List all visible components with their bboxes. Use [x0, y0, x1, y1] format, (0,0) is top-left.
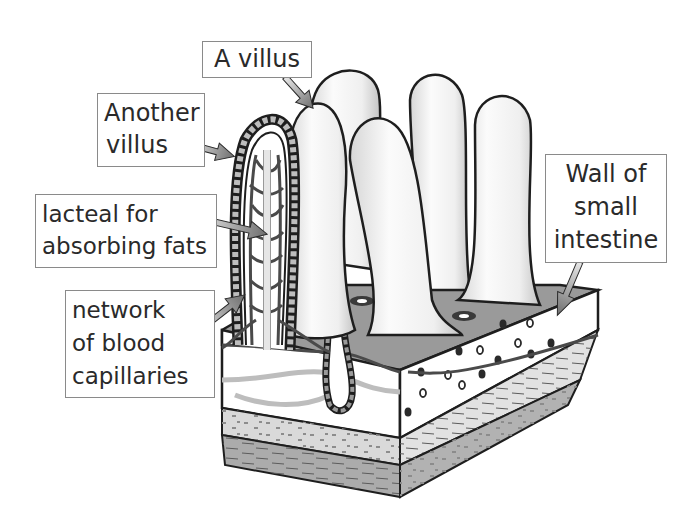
label-capillaries: network of blood capillaries	[65, 290, 215, 398]
label-wall-line-1: Wall of	[552, 158, 660, 191]
label-another-villus: Another villus	[97, 93, 205, 167]
label-capillaries-line-1: network	[72, 294, 208, 327]
villi-diagram: A villus Another villus lacteal for abso…	[0, 0, 693, 531]
label-another-villus-line-1: Another	[104, 97, 198, 129]
label-a-villus: A villus	[202, 41, 312, 78]
label-wall-line-3: intestine	[552, 224, 660, 257]
label-capillaries-line-2: of blood	[72, 327, 208, 360]
label-wall: Wall of small intestine	[545, 154, 667, 263]
label-a-villus-line-1: A villus	[209, 44, 305, 74]
label-lacteal-line-1: lacteal for	[42, 198, 210, 230]
villi	[288, 71, 540, 339]
intestinal-crypt	[326, 330, 352, 411]
label-capillaries-line-3: capillaries	[72, 360, 208, 393]
label-lacteal: lacteal for absorbing fats	[35, 194, 217, 268]
label-another-villus-line-2: villus	[104, 129, 198, 161]
label-lacteal-line-2: absorbing fats	[42, 230, 210, 262]
label-wall-line-2: small	[552, 191, 660, 224]
